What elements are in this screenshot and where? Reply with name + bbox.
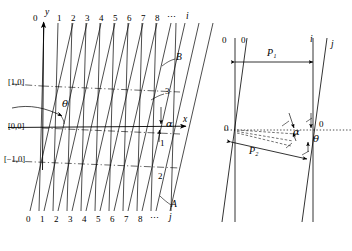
left-top-index-5: 5 [113,14,118,23]
left-bracket-label-1-0: [1,0] [8,78,24,87]
left-top-index-1: 1 [57,14,62,23]
right-top-label-j: j [331,40,334,50]
left-bottom-ellipsis: ⋯ [150,214,160,223]
right-mid-label-0-left: 0 [224,124,229,133]
right-p1-label: P₁ [267,48,277,58]
left-top-index-6: 6 [127,14,132,23]
left-bottom-index-name-j: j [169,213,172,223]
right-top-label-0-left: 0 [222,36,227,45]
left-bottom-index-7: 7 [124,215,129,224]
figure-container: 0 y 1 2 3 4 5 6 7 8 ⋯ i [1,0] [0,0] [−1,… [0,0,352,251]
left-theta-label: θ [62,99,68,109]
right-top-label-i: i [310,35,313,45]
left-theta-pointer [12,106,62,116]
left-top-index-8: 8 [155,14,160,23]
left-top-index-4: 4 [99,14,104,23]
left-line-label-2: 2 [158,172,163,181]
left-bracket-label-0-0: [0,0] [8,122,24,131]
left-top-index-name-i: i [186,12,189,22]
right-alpha-label: α [293,127,300,137]
left-x-axis-label: x [183,115,187,125]
left-bottom-index-3: 3 [68,215,73,224]
left-top-ellipsis: ⋯ [167,13,177,22]
left-bottom-index-8: 8 [138,215,143,224]
left-line-label-1: 1 [160,139,165,148]
right-top-label-0-slant: 0 [241,36,246,45]
right-dashed-fan [237,130,296,146]
left-bottom-index-5: 5 [96,215,101,224]
left-y-axis [43,22,44,170]
left-y-axis-label: y [45,8,49,18]
right-theta-label: θ [313,134,319,144]
left-bottom-index-2: 2 [54,215,59,224]
left-line-label-3: 3 [165,87,170,96]
right-p2-measure [231,142,307,159]
left-bottom-index-4: 4 [82,215,87,224]
left-theta-arc [58,112,64,124]
left-top-index-3: 3 [85,14,90,23]
left-bottom-index-6: 6 [110,215,115,224]
left-alpha-label: α [166,119,173,129]
left-top-index-2: 2 [71,14,76,23]
left-line-label-A: A [171,200,177,210]
right-panel-graphics [222,38,352,222]
left-top-index-0: 0 [33,14,38,23]
right-mid-label-0-right: 0 [319,120,324,129]
left-line-label-B: B [176,53,182,63]
left-top-index-7: 7 [141,14,146,23]
right-p2-label: P₂ [249,146,259,156]
left-bottom-index-1: 1 [40,215,45,224]
left-bottom-index-0: 0 [26,215,31,224]
left-bracket-label-neg1-0: [−1,0] [4,155,25,164]
